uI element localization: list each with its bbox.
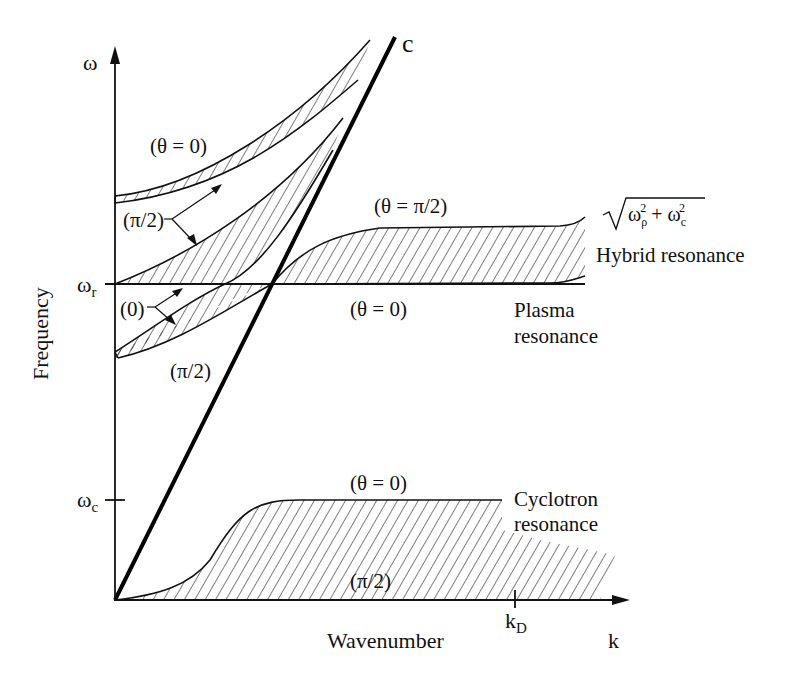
x-axis-symbol: k xyxy=(608,628,619,653)
upper-theta0-label: (θ = 0) xyxy=(150,134,207,158)
hybrid-resonance-band xyxy=(272,217,585,284)
omega-r-label: ωr xyxy=(77,272,96,300)
plasma-resonance-label-line2: resonance xyxy=(514,324,598,348)
upper-pi2-label: (π/2) xyxy=(123,208,164,232)
hybrid-theta-pi2-label: (θ = π/2) xyxy=(374,194,447,218)
upper-em-branch xyxy=(115,40,370,203)
omega-c-label: ωc xyxy=(77,487,98,515)
y-axis-symbol: ω xyxy=(83,50,97,75)
c-label: c xyxy=(402,29,414,58)
x-axis-title: Wavenumber xyxy=(327,628,444,653)
y-axis-title: Frequency xyxy=(28,287,53,380)
cyclotron-resonance-label-line1: Cyclotron xyxy=(514,487,598,511)
dispersion-diagram: ω k Frequency Wavenumber ωr ωc kD c (θ =… xyxy=(0,0,786,681)
cyclotron-pi2-label: (π/2) xyxy=(350,569,391,593)
plasma-resonance-label-line1: Plasma xyxy=(514,298,575,322)
cyclotron-theta0-label: (θ = 0) xyxy=(350,471,407,495)
svg-text:ωρ2+ωc2: ωρ2+ωc2 xyxy=(628,201,686,229)
plasma-theta0-label: (θ = 0) xyxy=(350,297,407,321)
hybrid-frequency-formula: ωρ2+ωc2 xyxy=(603,198,705,229)
x-axis-arrow-icon xyxy=(612,595,630,605)
lower-pi2-label: (π/2) xyxy=(170,359,211,383)
cyclotron-resonance-label-line2: resonance xyxy=(514,512,598,536)
y-axis-arrow-icon xyxy=(110,46,120,64)
hybrid-resonance-label: Hybrid resonance xyxy=(596,243,745,267)
kD-label: kD xyxy=(505,608,527,636)
lower-0-label: (0) xyxy=(120,297,145,321)
lower-branch xyxy=(115,284,272,358)
